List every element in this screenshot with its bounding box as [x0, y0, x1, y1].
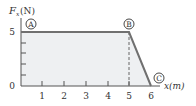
- point-c-marker: C: [154, 73, 164, 83]
- x-tick-label-2: 2: [61, 91, 67, 101]
- point-b-marker: B: [124, 19, 134, 29]
- x-axis-title: x(m): [164, 81, 185, 91]
- x-tick-label-4: 4: [105, 91, 111, 101]
- x-tick-label-6: 6: [148, 91, 154, 101]
- x-tick-label-3: 3: [83, 91, 89, 101]
- force-position-chart: A B C F x (N) 5 0 1 2 3 4 5 6 x(m): [0, 0, 196, 106]
- y-tick-label-0: 0: [9, 81, 15, 91]
- y-axis-unit: (N): [20, 6, 35, 16]
- point-a-label: A: [27, 20, 34, 29]
- point-b-label: B: [126, 20, 132, 29]
- x-tick-label-1: 1: [39, 91, 45, 101]
- x-tick-label-5: 5: [126, 91, 132, 101]
- point-a-marker: A: [26, 19, 36, 29]
- y-tick-label-5: 5: [9, 27, 15, 37]
- point-c-label: C: [156, 74, 162, 83]
